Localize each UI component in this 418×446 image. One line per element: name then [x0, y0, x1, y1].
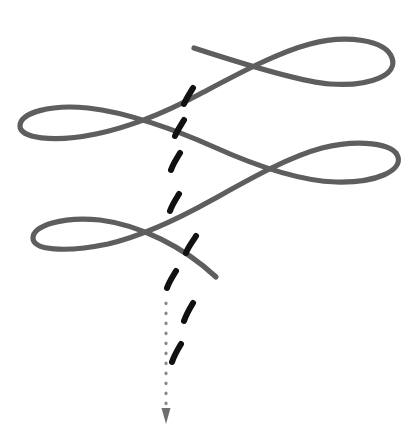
figure-canvas: Sinusoidal wave path with descending das…	[0, 0, 418, 446]
diagram-svg	[0, 0, 418, 446]
